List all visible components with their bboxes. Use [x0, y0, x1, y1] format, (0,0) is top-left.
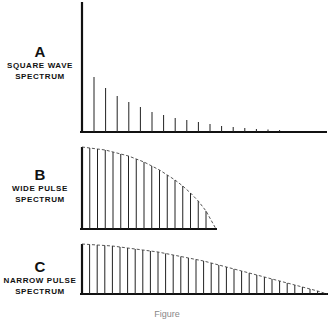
- panel-b-chart: [80, 147, 217, 230]
- panel-c-chart: [80, 244, 328, 295]
- envelope-curve: [82, 244, 327, 294]
- figure-caption: Figure: [0, 309, 334, 319]
- envelope-curve: [82, 147, 216, 229]
- panel-a-chart: [80, 2, 327, 133]
